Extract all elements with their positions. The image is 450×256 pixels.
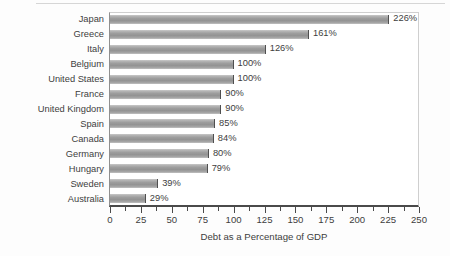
minor-tick [218,207,219,211]
bar-value-label: 100% [238,59,262,68]
major-tick [265,207,266,213]
bar [110,194,146,203]
major-tick [419,207,420,213]
x-tick-label: 25 [136,214,147,226]
minor-tick [125,207,126,211]
major-tick [172,207,173,213]
bar-value-label: 90% [225,89,244,98]
major-tick [388,207,389,213]
bar [110,15,389,24]
bar-value-label: 79% [212,164,231,173]
major-tick [203,207,204,213]
bar-value-label: 226% [393,14,417,23]
x-axis-title: Debt as a Percentage of GDP [109,231,419,243]
major-tick [110,207,111,213]
minor-tick [342,207,343,211]
bar-value-label: 90% [225,104,244,113]
category-label: Spain [0,119,104,129]
bar-value-label: 100% [238,74,262,83]
category-label: United States [0,74,104,84]
bar [110,134,214,143]
bar-value-label: 84% [218,134,237,143]
x-tick-label: 225 [380,214,396,226]
major-tick [141,207,142,213]
bar [110,90,221,99]
minor-tick [404,207,405,211]
category-label: Japan [0,14,104,24]
bar-value-label: 29% [150,194,169,203]
bar [110,105,221,114]
bar [110,149,209,158]
bar-chart-figure: JapanGreeceItalyBelgiumUnited StatesFran… [0,0,450,256]
x-tick-label: 125 [256,214,272,226]
bar [110,164,208,173]
bar-value-label: 80% [213,149,232,158]
bar-value-label: 161% [313,29,337,38]
x-axis-tick-labels: 0255075100125150175200225250 [0,214,450,228]
bar-value-label: 39% [162,179,181,188]
bar-value-label: 126% [270,44,294,53]
category-axis-labels: JapanGreeceItalyBelgiumUnited StatesFran… [0,12,104,206]
minor-tick [249,207,250,211]
bar [110,119,215,128]
x-tick-label: 50 [166,214,177,226]
x-tick-label: 200 [349,214,365,226]
bar [110,30,309,39]
category-label: Canada [0,134,104,144]
top-divider [36,3,445,4]
category-label: Hungary [0,164,104,174]
major-tick [326,207,327,213]
category-label: Germany [0,149,104,159]
minor-tick [280,207,281,211]
category-label: Sweden [0,179,104,189]
major-tick [357,207,358,213]
x-tick-label: 150 [287,214,303,226]
bar-value-label: 85% [219,119,238,128]
major-tick [234,207,235,213]
x-tick-label: 250 [411,214,427,226]
minor-tick [373,207,374,211]
x-tick-label: 100 [226,214,242,226]
bar [110,60,234,69]
bar [110,75,234,84]
category-label: France [0,89,104,99]
bars-layer: 226%161%126%100%100%90%90%85%84%80%79%39… [110,12,419,206]
category-label: Australia [0,194,104,204]
x-tick-label: 0 [107,214,112,226]
category-label: Greece [0,29,104,39]
minor-tick [311,207,312,211]
category-label: United Kingdom [0,104,104,114]
bar [110,179,158,188]
minor-tick [156,207,157,211]
x-tick-label: 175 [318,214,334,226]
category-label: Italy [0,44,104,54]
bar [110,45,266,54]
minor-tick [187,207,188,211]
x-tick-label: 75 [197,214,208,226]
category-label: Belgium [0,59,104,69]
major-tick [295,207,296,213]
